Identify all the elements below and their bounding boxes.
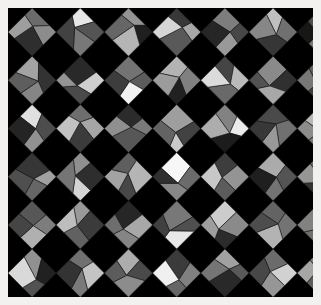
plot-background: [8, 8, 313, 297]
figure-frame: [0, 0, 321, 305]
quilt-plot-area: [8, 8, 313, 297]
